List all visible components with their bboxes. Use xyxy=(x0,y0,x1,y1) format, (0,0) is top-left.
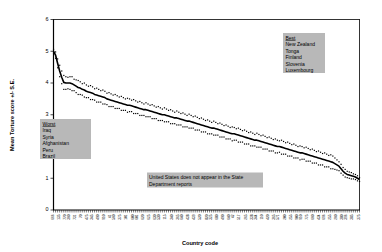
error-upper-dot xyxy=(98,89,99,90)
x-tick-label: 325 xyxy=(209,214,213,220)
error-lower-dot xyxy=(127,112,128,113)
error-lower-dot xyxy=(359,181,360,182)
error-lower-dot xyxy=(215,135,216,136)
error-lower-dot xyxy=(172,123,173,124)
note-line-1: United States does not appear in the Sta… xyxy=(149,174,243,180)
x-tick-label: 200 xyxy=(283,214,287,220)
error-upper-dot xyxy=(234,127,235,128)
error-lower-dot xyxy=(314,162,315,163)
x-axis-ticks: 6661357703607317047534549091041560375101… xyxy=(51,214,361,220)
error-lower-dot xyxy=(219,136,220,137)
error-upper-dot xyxy=(219,122,220,123)
error-lower-dot xyxy=(250,145,251,146)
error-upper-dot xyxy=(299,145,300,146)
error-upper-dot xyxy=(178,112,179,113)
error-upper-dot xyxy=(80,81,81,82)
error-lower-dot xyxy=(355,179,356,180)
error-lower-dot xyxy=(76,92,77,93)
error-lower-dot xyxy=(168,121,169,122)
error-upper-dot xyxy=(102,89,103,90)
error-lower-dot xyxy=(141,115,142,116)
error-lower-dot xyxy=(119,108,120,109)
error-lower-dot xyxy=(293,157,294,158)
error-upper-dot xyxy=(213,121,214,122)
error-upper-dot xyxy=(355,174,356,175)
error-lower-dot xyxy=(73,90,74,91)
error-upper-dot xyxy=(301,146,302,147)
error-upper-dot xyxy=(281,140,282,141)
error-lower-dot xyxy=(308,161,309,162)
error-lower-dot xyxy=(291,155,292,156)
error-upper-dot xyxy=(61,70,62,71)
error-lower-dot xyxy=(69,89,70,90)
error-upper-dot xyxy=(139,101,140,102)
error-upper-dot xyxy=(304,147,305,148)
error-upper-dot xyxy=(78,80,79,81)
error-lower-dot xyxy=(343,175,344,176)
x-tick-label: 115 xyxy=(163,214,167,219)
x-tick-label: 910 xyxy=(299,214,303,220)
error-upper-dot xyxy=(119,96,120,97)
error-upper-dot xyxy=(289,143,290,144)
x-tick-label: 530 xyxy=(157,214,161,220)
error-lower-dot xyxy=(334,169,335,170)
error-lower-dot xyxy=(256,147,257,148)
error-upper-dot xyxy=(63,75,64,76)
error-lower-dot xyxy=(137,113,138,114)
error-lower-dot xyxy=(98,102,99,103)
error-upper-dot xyxy=(306,147,307,148)
x-tick-label: 344 xyxy=(254,214,258,220)
error-lower-dot xyxy=(139,115,140,116)
error-lower-dot xyxy=(201,131,202,132)
best-annotation-box: Best New Zealand Tonga Finland Slovenia … xyxy=(283,33,325,73)
y-tick-label: 6 xyxy=(46,16,49,22)
error-upper-dot xyxy=(269,136,270,137)
error-upper-dot xyxy=(330,154,331,155)
error-lower-dot xyxy=(326,166,327,167)
chart-figure: 0123456 66613577036073170475345490910415… xyxy=(0,0,382,252)
error-upper-dot xyxy=(100,90,101,91)
x-tick-label: 625 xyxy=(147,214,151,220)
error-lower-dot xyxy=(145,116,146,117)
y-tick-label: 0 xyxy=(46,206,49,212)
error-upper-dot xyxy=(357,175,358,176)
x-tick-label: 42 xyxy=(231,214,235,218)
error-upper-dot xyxy=(217,123,218,124)
error-upper-dot xyxy=(244,129,245,130)
error-upper-dot xyxy=(76,79,77,80)
error-upper-dot xyxy=(71,76,72,77)
error-upper-dot xyxy=(258,134,259,135)
error-lower-dot xyxy=(195,129,196,130)
error-upper-dot xyxy=(211,122,212,123)
error-upper-dot xyxy=(349,171,350,172)
best-box-header: Best xyxy=(286,35,297,41)
error-lower-dot xyxy=(281,154,282,155)
x-tick-label: 490 xyxy=(96,214,100,220)
x-axis-title: Country code xyxy=(182,240,218,246)
error-lower-dot xyxy=(182,126,183,127)
error-upper-dot xyxy=(205,120,206,121)
error-upper-dot xyxy=(215,122,216,123)
best-item-4: Luxembourg xyxy=(286,67,314,73)
error-upper-dot xyxy=(110,93,111,94)
error-upper-dot xyxy=(223,125,224,126)
error-lower-dot xyxy=(320,164,321,165)
x-tick-label: 375 xyxy=(118,214,122,220)
error-lower-dot xyxy=(230,138,231,139)
error-upper-dot xyxy=(256,133,257,134)
error-lower-dot xyxy=(262,148,263,149)
error-upper-dot xyxy=(203,119,204,120)
error-lower-dot xyxy=(277,152,278,153)
error-lower-dot xyxy=(113,106,114,107)
error-upper-dot xyxy=(285,142,286,143)
worst-item-1: Syria xyxy=(43,134,55,140)
error-upper-dot xyxy=(338,161,339,162)
error-upper-dot xyxy=(353,173,354,174)
error-upper-dot xyxy=(345,169,346,170)
x-tick-label: 731 xyxy=(73,214,77,220)
error-lower-dot xyxy=(63,89,64,90)
x-tick-label: 385 xyxy=(350,214,354,220)
error-upper-dot xyxy=(180,113,181,114)
error-lower-dot xyxy=(271,150,272,151)
error-lower-dot xyxy=(86,97,87,98)
